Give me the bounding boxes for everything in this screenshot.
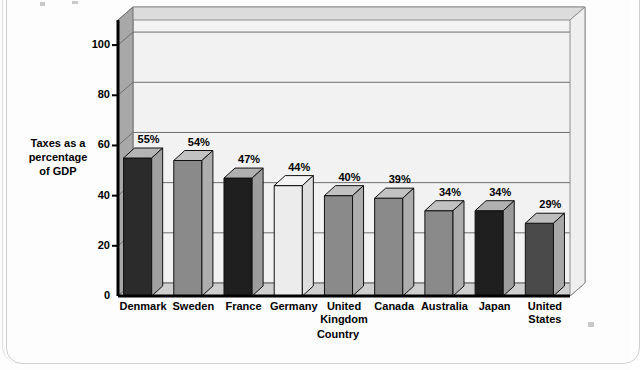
x-axis-category-label: UnitedStates (512, 300, 578, 326)
bar-side (453, 201, 464, 296)
bar-front (274, 186, 302, 296)
bar-side (403, 188, 414, 296)
bar-front (324, 196, 352, 296)
plot-right-panel (570, 7, 585, 296)
bar-side (553, 213, 564, 296)
y-axis-tick-label: 100 (70, 38, 110, 50)
bar-side (503, 201, 514, 296)
bar-side (353, 186, 364, 296)
y-axis-tick-label: 80 (70, 88, 110, 100)
bar-side (252, 168, 263, 296)
bar-side (152, 148, 163, 296)
y-axis-tick-label: 40 (70, 189, 110, 201)
bar-front (375, 198, 403, 296)
bar-front (475, 211, 503, 296)
bar-side (302, 176, 313, 296)
x-axis-title: Country (288, 328, 388, 340)
y-axis-title-line: percentage (12, 150, 104, 164)
bar-front (224, 178, 252, 296)
bar-front (425, 211, 453, 296)
plot-top-face (118, 7, 585, 20)
x-axis-category-line: United (512, 300, 578, 313)
bar-front (174, 161, 202, 296)
x-axis-category-line: Kingdom (311, 313, 377, 326)
bar-value-label: 34% (470, 186, 530, 198)
bar-front (124, 158, 152, 296)
bar-value-label: 54% (169, 136, 229, 148)
bar-side (202, 151, 213, 296)
y-axis-tick-label: 0 (70, 289, 110, 301)
y-axis-tick-label: 20 (70, 239, 110, 251)
y-axis-tick-label: 60 (70, 138, 110, 150)
x-axis-category-line: States (512, 313, 578, 326)
bar-value-label: 39% (370, 173, 430, 185)
bar-value-label: 29% (520, 198, 580, 210)
y-axis-title-line: of GDP (12, 164, 104, 178)
bar-front (525, 223, 553, 296)
